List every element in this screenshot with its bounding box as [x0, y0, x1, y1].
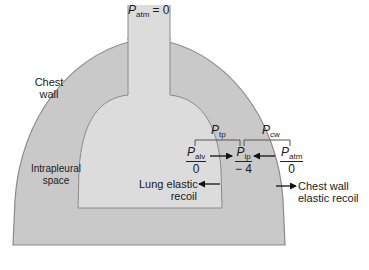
intrapleural-pressure-symbol: Pip [235, 146, 252, 162]
intrapleural-pressure: Pip − 4 [235, 146, 252, 175]
atmospheric-pressure: Patm 0 [280, 146, 303, 175]
lung-elastic-recoil-label: Lung elastic recoil [139, 178, 197, 202]
alveolar-pressure-value: 0 [186, 162, 206, 175]
alveolar-pressure: Palv 0 [186, 146, 206, 175]
atmospheric-pressure-value: 0 [280, 162, 303, 175]
ptp-label: Ptp [211, 124, 226, 138]
atmospheric-pressure-symbol: Patm [280, 146, 303, 162]
intrapleural-pressure-value: − 4 [235, 162, 252, 175]
chest-wall-label: Chest wall [32, 76, 66, 100]
intrapleural-space-label: Intrapleural space [29, 163, 83, 187]
lung-pressure-diagram: Patm = 0 Chest wall Intrapleural space P… [0, 0, 369, 270]
chest-wall-elastic-recoil-label: Chest wall elastic recoil [298, 180, 359, 204]
diagram-shapes [0, 0, 369, 270]
top-patm-label: Patm = 0 [128, 4, 169, 18]
alveolar-pressure-symbol: Palv [186, 146, 206, 162]
pcw-label: Pcw [262, 124, 280, 138]
